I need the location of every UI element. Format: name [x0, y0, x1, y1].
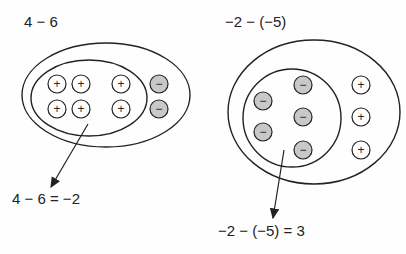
- left-inner-ellipse: [31, 60, 147, 136]
- diagram-canvas: ++++++−−−−−−−+++: [0, 0, 406, 254]
- plus-icon: +: [357, 143, 364, 157]
- plus-icon: +: [53, 77, 60, 91]
- plus-icon: +: [77, 102, 84, 116]
- left-outer-ellipse: [22, 43, 190, 147]
- plus-icon: +: [53, 102, 60, 116]
- plus-icon: +: [117, 102, 124, 116]
- minus-icon: −: [299, 78, 306, 92]
- minus-icon: −: [259, 94, 266, 108]
- minus-icon: −: [299, 110, 306, 124]
- right-inner-ellipse: [243, 69, 341, 167]
- right-arrow: [273, 150, 284, 218]
- minus-icon: −: [259, 125, 266, 139]
- plus-icon: +: [357, 78, 364, 92]
- minus-icon: −: [299, 143, 306, 157]
- minus-icon: −: [155, 77, 162, 91]
- plus-icon: +: [117, 77, 124, 91]
- minus-icon: −: [155, 102, 162, 116]
- plus-icon: +: [77, 77, 84, 91]
- plus-icon: +: [357, 110, 364, 124]
